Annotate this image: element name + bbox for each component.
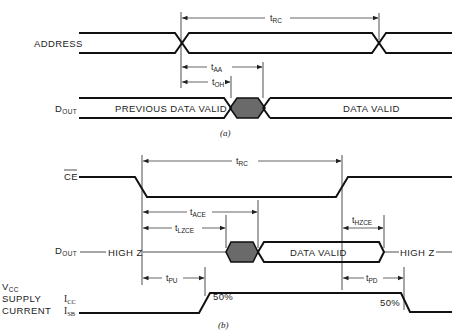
svg-text:tAA: tAA (211, 62, 223, 73)
ce-waveform (79, 177, 452, 197)
data-valid-label-a: DATA VALID (343, 103, 400, 114)
part-b: CE tRC tACE tLZCE (2, 155, 452, 330)
data-valid-label-b: DATA VALID (290, 247, 347, 258)
supply-label: SUPPLY (2, 293, 41, 304)
previous-data-valid-label: PREVIOUS DATA VALID (115, 103, 227, 114)
tpu-dimension: tPU (143, 273, 204, 284)
tpd-dimension: tPD (343, 273, 403, 284)
svg-text:tACE: tACE (190, 207, 207, 218)
svg-text:tOH: tOH (212, 77, 225, 88)
tace-dimension: tACE (143, 207, 257, 218)
current-label: CURRENT (2, 305, 51, 316)
transition-region-b (226, 242, 258, 262)
ce-label: CE (64, 171, 78, 182)
pct-rise-label: 50% (213, 291, 233, 302)
part-a: ADDRESS tRC tAA tOH DOUT (34, 12, 452, 138)
isb-label: ISB (64, 306, 76, 317)
address-waveform (79, 33, 452, 53)
svg-text:tPD: tPD (366, 273, 378, 284)
high-z-right-label: HIGH Z (400, 247, 435, 258)
icc-label: ICC (64, 294, 76, 305)
pct-fall-label: 50% (380, 297, 400, 308)
dout-label-b: DOUT (55, 245, 77, 257)
dout-label-a: DOUT (55, 103, 77, 115)
timing-diagram: ADDRESS tRC tAA tOH DOUT (0, 0, 460, 336)
high-z-left-label: HIGH Z (108, 247, 143, 258)
trc-dimension-b: tRC (143, 156, 341, 167)
svg-text:tHZCE: tHZCE (352, 215, 373, 226)
trc-dimension-a: tRC (182, 13, 378, 24)
toh-dimension: tOH (182, 77, 230, 88)
vcc-label: VCC (2, 281, 19, 293)
address-label: ADDRESS (34, 38, 83, 49)
thzce-dimension: tHZCE (343, 215, 383, 228)
transition-region-a (230, 98, 265, 118)
svg-text:tRC: tRC (270, 13, 282, 24)
svg-text:tLZCE: tLZCE (175, 223, 195, 234)
svg-text:tRC: tRC (236, 156, 248, 167)
taa-dimension: tAA (182, 62, 262, 73)
caption-a: (a) (220, 128, 231, 138)
svg-text:tPU: tPU (166, 273, 178, 284)
caption-b: (b) (218, 320, 229, 330)
tlzce-dimension: tLZCE (143, 223, 225, 234)
